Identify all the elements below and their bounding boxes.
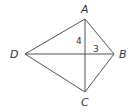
vertex-label-c: C [81, 96, 89, 109]
vertex-label-a: A [80, 3, 89, 16]
vertex-label-b: B [119, 48, 127, 61]
side-bc [85, 54, 114, 92]
vertex-label-d: D [10, 48, 18, 61]
kite-diagram: A B C D 4 3 [0, 0, 134, 112]
side-cd [25, 54, 85, 92]
segment-label-3: 3 [93, 44, 99, 54]
side-ab [85, 19, 114, 54]
segment-label-4: 4 [76, 36, 82, 46]
